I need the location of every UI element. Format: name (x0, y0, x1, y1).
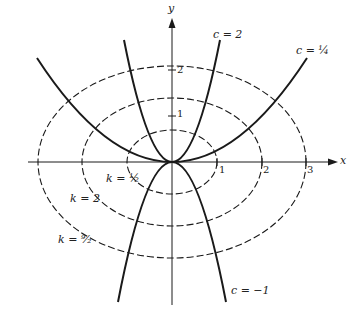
y-tick-label-2: 2 (177, 64, 183, 75)
y-tick-label-1: 1 (177, 108, 183, 119)
x-tick-label-1: 1 (219, 164, 225, 175)
label-k-2: k = 2 (70, 192, 100, 205)
y-axis-arrow-icon (169, 18, 176, 28)
x-tick-label-2: 2 (263, 164, 269, 175)
label-c-2: c = 2 (213, 28, 242, 41)
orthogonal-trajectories-figure: y x 1 2 3 1 2 c = 2 c = ¼ c = −1 k = ½ k… (0, 0, 360, 310)
label-k-nine-halves: k = ⁹⁄₂ (58, 233, 92, 246)
label-c-quarter: c = ¼ (296, 44, 329, 57)
x-tick-label-3: 3 (307, 164, 313, 175)
y-axis-label: y (168, 2, 174, 15)
label-k-half: k = ½ (106, 172, 140, 185)
x-axis-arrow-icon (328, 159, 338, 166)
x-axis-label: x (340, 154, 346, 167)
label-c-minus-1: c = −1 (231, 284, 270, 297)
